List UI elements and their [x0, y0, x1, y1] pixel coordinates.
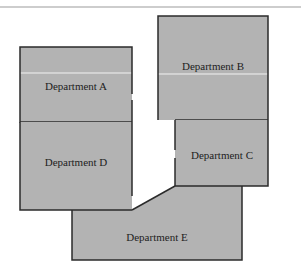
- department-b-label: Department B: [182, 60, 244, 72]
- department-d-label: Department D: [45, 156, 108, 168]
- department-e-label: Department E: [126, 231, 187, 243]
- department-c-label: Department C: [191, 149, 253, 161]
- department-a-label: Department A: [45, 80, 107, 92]
